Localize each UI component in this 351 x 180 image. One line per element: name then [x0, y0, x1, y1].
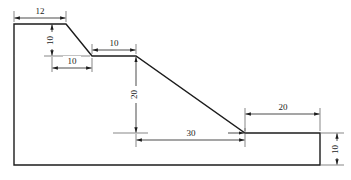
- dimension-toe-width: 20: [245, 102, 320, 131]
- dimension-label-first-run: 10: [68, 56, 78, 66]
- profile-outline: [14, 24, 320, 165]
- profile-drawing: 12 10 10 10: [0, 0, 351, 180]
- dimension-bench-width: 10: [92, 38, 136, 54]
- profile-outline-group: [14, 24, 320, 165]
- dimension-label-top-width: 12: [36, 6, 45, 16]
- dimension-label-toe-height: 10: [330, 145, 340, 155]
- dimension-main-drop: 20: [113, 57, 148, 133]
- dimension-first-run: 10: [52, 56, 92, 72]
- dimension-label-first-drop: 10: [45, 36, 55, 46]
- dimension-label-main-run: 30: [187, 128, 197, 138]
- dimension-toe-height: 10: [321, 133, 344, 165]
- dimension-label-toe-width: 20: [279, 102, 289, 112]
- dimension-main-run: 30: [136, 128, 245, 147]
- dimension-first-drop: 10: [44, 24, 90, 56]
- dimension-label-main-drop: 20: [129, 90, 139, 100]
- technical-drawing-canvas: 12 10 10 10: [0, 0, 351, 180]
- dimension-top-width: 12: [14, 6, 66, 22]
- dimension-label-bench-width: 10: [110, 38, 120, 48]
